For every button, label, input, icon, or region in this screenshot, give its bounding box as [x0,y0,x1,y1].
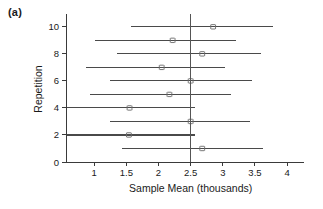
y-tick-label: 8 [54,48,59,59]
confidence-interval-row [66,133,195,137]
x-tick-label: 1.5 [120,167,133,178]
confidence-interval-row [117,52,261,56]
confidence-interval-row [95,38,237,42]
figure-panel: (a) 11.522.533.540246810Sample Mean (tho… [0,0,323,209]
confidence-interval-row [122,146,263,150]
intervals-layer [66,25,273,151]
y-tick-label: 10 [49,21,60,32]
y-tick-label: 6 [54,75,59,86]
y-tick-label: 2 [54,129,59,140]
x-tick-label: 2.5 [184,167,197,178]
confidence-interval-row [66,106,195,110]
x-axis-title: Sample Mean (thousands) [129,182,252,194]
y-tick-label: 4 [54,102,59,113]
x-tick-label: 1 [92,167,97,178]
x-tick-label: 4 [284,167,289,178]
confidence-interval-row [131,25,273,29]
y-tick-label: 0 [54,157,59,168]
y-axis-title: Repetition [32,65,44,112]
confidence-interval-row [110,119,250,123]
confidence-interval-row [110,79,252,83]
x-tick-label: 3 [220,167,225,178]
confidence-interval-plot: 11.522.533.540246810Sample Mean (thousan… [0,0,323,209]
confidence-interval-row [86,65,225,69]
axes-layer [62,14,304,166]
confidence-interval-row [90,92,231,96]
x-tick-label: 3.5 [248,167,261,178]
x-tick-label: 2 [156,167,161,178]
